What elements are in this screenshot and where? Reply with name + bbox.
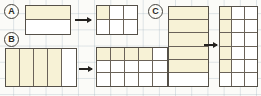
model-cell bbox=[125, 61, 139, 74]
model-cell-shaded bbox=[48, 49, 62, 86]
model-cell-shaded bbox=[220, 33, 232, 46]
model-cell bbox=[139, 73, 153, 86]
model-cell-shaded bbox=[169, 33, 208, 46]
model-cell bbox=[169, 73, 208, 86]
model-cell bbox=[139, 61, 153, 74]
model-cell-shaded bbox=[139, 48, 153, 61]
model-cell bbox=[124, 20, 137, 34]
model-cell bbox=[245, 7, 257, 20]
model-cell-shaded bbox=[97, 48, 111, 61]
model-cell bbox=[111, 61, 125, 74]
model-cell bbox=[26, 20, 70, 34]
result-model-b bbox=[96, 47, 168, 87]
model-cell bbox=[124, 6, 137, 20]
model-cell-shaded bbox=[26, 6, 70, 20]
arrow-a bbox=[75, 19, 91, 21]
model-cell bbox=[232, 60, 244, 73]
arrow-b bbox=[79, 68, 92, 70]
model-cell bbox=[232, 33, 244, 46]
part-label-c: C bbox=[148, 4, 163, 19]
model-cell-shaded bbox=[220, 60, 232, 73]
model-cell bbox=[153, 61, 167, 74]
model-cell-shaded bbox=[220, 7, 232, 20]
model-cell bbox=[245, 20, 257, 33]
part-label-a: A bbox=[4, 4, 19, 19]
model-cell bbox=[245, 73, 257, 86]
model-cell-shaded bbox=[6, 49, 20, 86]
model-cell bbox=[110, 6, 123, 20]
model-cell bbox=[220, 73, 232, 86]
model-cell-shaded bbox=[169, 20, 208, 33]
model-cell bbox=[245, 33, 257, 46]
model-cell bbox=[125, 73, 139, 86]
source-model-c bbox=[168, 6, 209, 87]
model-cell bbox=[153, 73, 167, 86]
model-cell bbox=[111, 73, 125, 86]
part-label-b: B bbox=[4, 32, 19, 47]
model-cell-shaded bbox=[220, 47, 232, 60]
model-cell bbox=[232, 47, 244, 60]
model-cell bbox=[97, 61, 111, 74]
source-model-b bbox=[5, 48, 77, 87]
model-cell-shaded bbox=[220, 20, 232, 33]
model-cell-shaded bbox=[125, 48, 139, 61]
result-model-a bbox=[96, 5, 138, 35]
arrow-c bbox=[204, 44, 217, 46]
model-cell bbox=[62, 49, 76, 86]
model-cell bbox=[232, 20, 244, 33]
model-cell bbox=[245, 47, 257, 60]
model-cell-shaded bbox=[169, 47, 208, 60]
model-cell bbox=[153, 48, 167, 61]
model-cell bbox=[110, 20, 123, 34]
model-cell bbox=[245, 60, 257, 73]
model-cell-shaded bbox=[111, 48, 125, 61]
model-cell-shaded bbox=[97, 6, 110, 20]
model-cell-shaded bbox=[20, 49, 34, 86]
source-model-a bbox=[25, 5, 71, 35]
model-cell-shaded bbox=[169, 60, 208, 73]
model-cell bbox=[97, 73, 111, 86]
model-cell-shaded bbox=[34, 49, 48, 86]
model-cell-shaded bbox=[169, 7, 208, 20]
model-cell bbox=[97, 20, 110, 34]
worksheet-canvas: A B C bbox=[0, 0, 261, 96]
model-cell bbox=[232, 7, 244, 20]
result-model-c bbox=[219, 6, 258, 87]
model-cell bbox=[232, 73, 244, 86]
